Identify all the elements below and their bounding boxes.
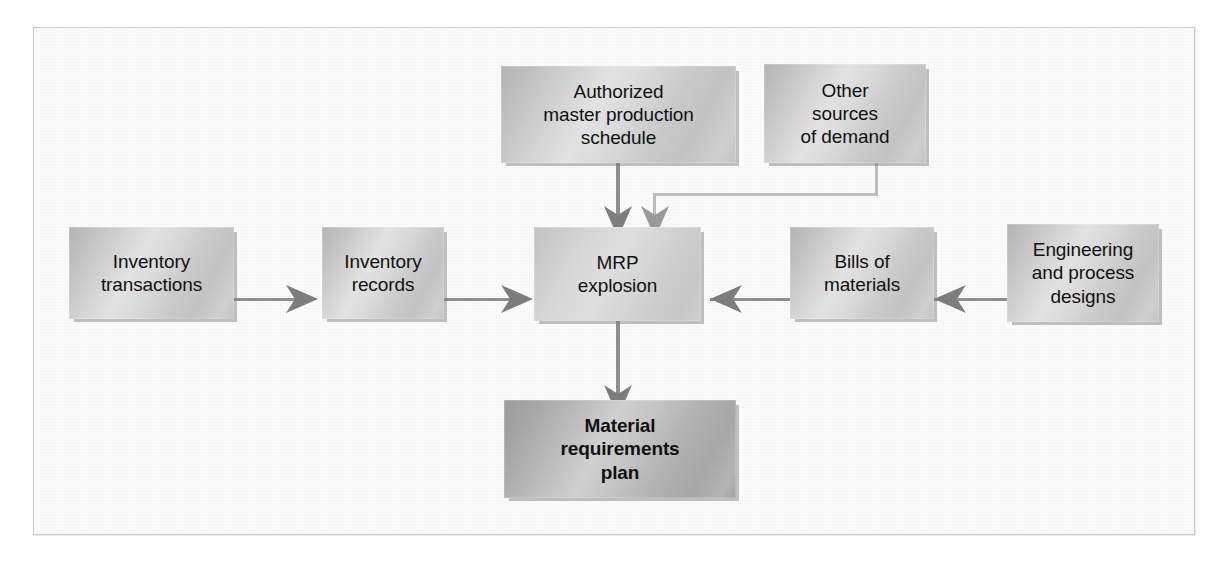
node-label-line: records [344,273,421,296]
node-label-line: Bills of [824,250,900,273]
node-inventory-transactions[interactable]: Inventory transactions [69,227,234,319]
arrowhead-right-mrp-explosion [499,284,533,314]
node-label: Bills of materials [824,250,900,296]
node-engineering-and-process-designs[interactable]: Engineering and process designs [1007,224,1159,322]
arrowhead-left-bills-of-materials [934,284,968,314]
edge-other-sources-vertical-drop [875,163,878,196]
node-other-sources-of-demand[interactable]: Other sources of demand [764,64,926,163]
node-label-line: MRP [578,251,657,274]
node-label-line: Inventory [344,250,421,273]
node-bills-of-materials[interactable]: Bills of materials [790,227,934,319]
node-label: Inventory transactions [101,250,202,296]
node-label: Inventory records [344,250,421,296]
node-label-line: master production [543,103,693,126]
mrp-flow-diagram: Authorized master production schedule Ot… [0,0,1212,568]
node-label-line: Material [560,414,679,437]
node-label: Material requirements plan [560,414,679,484]
node-material-requirements-plan[interactable]: Material requirements plan [504,400,736,498]
node-label-line: Authorized [543,80,693,103]
node-label-line: of demand [801,125,890,148]
node-label-line: Engineering [1032,238,1134,261]
edge-other-sources-horizontal-run [653,193,878,196]
node-label-line: plan [560,461,679,484]
node-label: Authorized master production schedule [543,80,693,150]
node-label-line: explosion [578,274,657,297]
node-label-line: Inventory [101,250,202,273]
node-authorized-master-production-schedule[interactable]: Authorized master production schedule [501,66,736,163]
node-label: Engineering and process designs [1032,238,1134,308]
node-label: Other sources of demand [801,79,890,149]
node-label-line: requirements [560,437,679,460]
node-label: MRP explosion [578,251,657,297]
arrowhead-right-inventory-records [284,284,318,314]
node-label-line: materials [824,273,900,296]
arrowhead-left-mrp-explosion [710,284,744,314]
node-label-line: and process [1032,261,1134,284]
node-inventory-records[interactable]: Inventory records [322,227,444,319]
node-label-line: designs [1032,285,1134,308]
node-label-line: schedule [543,126,693,149]
node-label-line: Other [801,79,890,102]
node-label-line: transactions [101,273,202,296]
node-label-line: sources [801,102,890,125]
diagram-panel: Authorized master production schedule Ot… [33,27,1195,535]
node-mrp-explosion[interactable]: MRP explosion [534,227,701,321]
